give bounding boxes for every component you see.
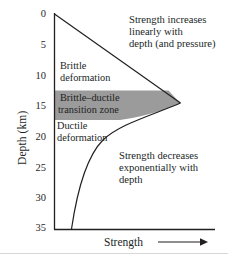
y-tick-30: 30 bbox=[24, 192, 46, 204]
annotation-brittle-line2: linearly with bbox=[129, 26, 183, 38]
y-tick-0: 0 bbox=[24, 8, 46, 20]
y-tick-5: 5 bbox=[24, 39, 46, 51]
zone-label-ductile-line2: deformation bbox=[57, 132, 107, 144]
bottom-divider bbox=[0, 253, 228, 254]
annotation-ductile-line1: Strength decreases bbox=[119, 150, 198, 162]
annotation-ductile-line3: depth bbox=[119, 174, 143, 186]
y-tick-10: 10 bbox=[24, 70, 46, 82]
annotation-brittle-line3: depth (and pressure) bbox=[129, 38, 215, 50]
right-arrow-icon bbox=[158, 238, 208, 246]
zone-label-ductile-line1: Ductile bbox=[57, 120, 87, 132]
y-axis-title: Depth (km) bbox=[16, 111, 29, 165]
strength-depth-diagram: 0 5 10 15 20 25 30 35 Depth (km) Strengt… bbox=[0, 0, 228, 259]
y-tick-35: 35 bbox=[24, 222, 46, 234]
zone-label-transition-line1: Brittle–ductile bbox=[60, 92, 119, 104]
zone-label-brittle-line1: Brittle bbox=[60, 60, 86, 72]
annotation-brittle-line1: Strength increases bbox=[129, 14, 206, 26]
zone-label-brittle-line2: deformation bbox=[60, 72, 110, 84]
zone-label-transition-line2: transition zone bbox=[58, 104, 119, 116]
x-axis-title: Strength bbox=[104, 236, 143, 249]
annotation-ductile-line2: exponentially with bbox=[119, 162, 198, 174]
